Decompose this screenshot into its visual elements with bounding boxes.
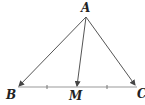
label-m: M [68, 89, 83, 103]
label-a: A [80, 1, 90, 15]
label-c: C [137, 87, 145, 101]
triangle-diagram: A B M C [0, 0, 145, 105]
segment-ac [86, 17, 135, 85]
label-b: B [5, 88, 16, 102]
segment-am [77, 17, 86, 86]
segment-ab [19, 17, 86, 86]
